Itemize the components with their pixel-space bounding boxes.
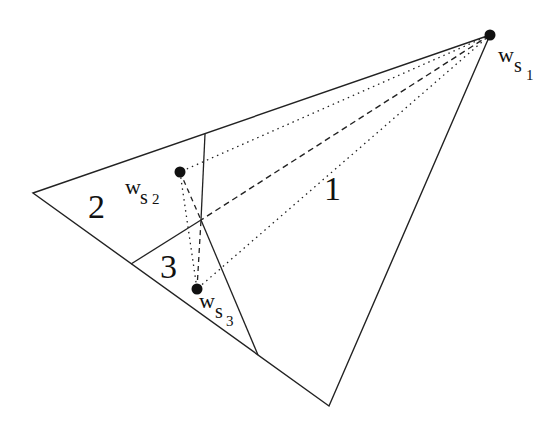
dotted-ws2-ws3 <box>180 172 197 289</box>
edge-top-to-center <box>201 134 205 220</box>
point-ws1 <box>485 30 496 41</box>
svg-text:s: s <box>215 300 223 322</box>
dashed-ws3-center <box>197 220 201 289</box>
region-label-1: 1 <box>324 170 341 207</box>
dotted-ws1-ws3 <box>197 35 490 289</box>
triangle-partition-diagram: 1 2 3 w s 1 w s 2 w s 3 <box>0 0 560 424</box>
region-label-3: 3 <box>160 248 177 285</box>
label-ws3: w s 3 <box>199 288 234 329</box>
svg-text:w: w <box>199 288 215 313</box>
dashed-ws2-center <box>180 172 201 220</box>
svg-text:s: s <box>140 186 148 208</box>
svg-text:2: 2 <box>152 191 160 207</box>
dotted-ws1-ws2 <box>180 35 490 172</box>
svg-text:s: s <box>514 54 522 76</box>
svg-text:w: w <box>498 42 514 67</box>
label-ws1: w s 1 <box>498 42 534 83</box>
point-ws2 <box>175 167 186 178</box>
svg-text:3: 3 <box>226 313 234 329</box>
svg-text:w: w <box>125 174 141 199</box>
svg-text:1: 1 <box>526 67 534 83</box>
label-ws2: w s 2 <box>125 174 160 208</box>
dashed-ws1-center <box>201 35 490 220</box>
region-label-2: 2 <box>88 188 105 225</box>
